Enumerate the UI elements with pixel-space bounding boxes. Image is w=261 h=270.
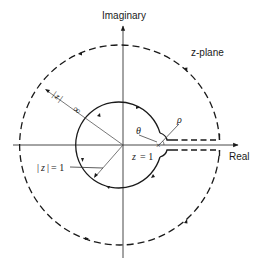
imaginary-axis-label: Imaginary bbox=[102, 10, 146, 21]
svg-text:= 1: = 1 bbox=[51, 162, 64, 173]
branch-cut-upper bbox=[172, 132, 220, 140]
theta-arc bbox=[163, 141, 165, 145]
svg-text:|: | bbox=[37, 162, 39, 173]
contour-diagram: × Imaginary Real z-plane θ ρ z = 1 | z |… bbox=[0, 0, 261, 270]
arrow-unit-left bbox=[81, 158, 84, 162]
branch-cut-lower bbox=[172, 150, 220, 158]
theta-label: θ bbox=[136, 125, 141, 136]
svg-text:∞: ∞ bbox=[71, 103, 83, 116]
arrow-unit-topleft bbox=[97, 113, 101, 117]
real-axis-label: Real bbox=[229, 151, 250, 162]
svg-text:z: z bbox=[40, 162, 45, 173]
arrow-outer-bottomright bbox=[184, 219, 188, 224]
arrow-unit-bottomleft bbox=[106, 186, 110, 189]
branch-point-marker: × bbox=[156, 141, 161, 150]
rho-label: ρ bbox=[176, 114, 182, 125]
arrow-unit-bottomright bbox=[151, 174, 155, 178]
outer-radius-label: | z | ∞ bbox=[51, 89, 84, 117]
unit-circle-label: | z | = 1 bbox=[37, 162, 64, 173]
unit-radius-line bbox=[95, 145, 123, 177]
theta-leader bbox=[139, 135, 157, 142]
branch-point-label: z = 1 bbox=[131, 151, 153, 162]
svg-text:z: z bbox=[131, 151, 136, 162]
svg-text:|: | bbox=[47, 162, 49, 173]
svg-text:= 1: = 1 bbox=[140, 151, 153, 162]
unit-radius-leader bbox=[70, 167, 103, 168]
plane-label: z-plane bbox=[191, 47, 224, 58]
